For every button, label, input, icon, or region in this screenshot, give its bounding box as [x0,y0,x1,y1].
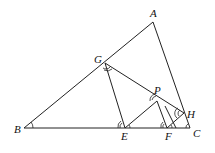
segment-ca [153,22,190,128]
segment-gh [105,63,184,113]
angle-mark-f [163,124,164,128]
angle-mark-h2 [175,108,178,118]
segment-ep [125,101,157,128]
segment-ge [105,63,125,128]
label-a: A [149,7,157,19]
segment-ab [24,22,153,128]
label-f: F [164,130,172,142]
label-b: B [14,123,21,135]
label-g: G [94,53,102,65]
angle-mark-e [120,123,122,128]
label-h: H [186,108,196,120]
geometry-diagram: A B C G E P F H [0,0,215,153]
angle-mark-p [152,96,156,100]
label-p: P [153,84,161,96]
angle-mark-h [178,110,180,116]
segment-pf [157,101,167,128]
label-c: C [193,127,201,139]
angle-mark-c [186,124,188,128]
angle-mark-b [31,122,33,128]
label-e: E [120,130,128,142]
